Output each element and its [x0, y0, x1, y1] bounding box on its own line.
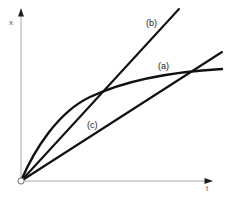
curve-c-label: (c)	[87, 121, 98, 130]
horizontal-axis-label: t	[206, 185, 208, 193]
vertical-axis-arrowhead	[18, 8, 24, 17]
function-plot-figure: x t (b) (a) (c)	[0, 0, 232, 200]
curve-a-path	[21, 69, 222, 181]
curve-b-label: (b)	[146, 19, 157, 28]
vertical-axis-label: x	[9, 19, 13, 27]
origin-marker-circle	[18, 178, 24, 184]
curve-a-label: (a)	[158, 62, 169, 71]
plot-canvas	[0, 0, 232, 200]
